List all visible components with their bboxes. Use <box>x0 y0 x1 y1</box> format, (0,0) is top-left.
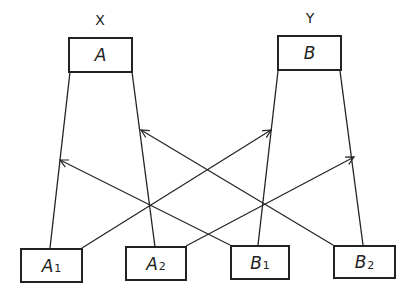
box-A1-label: A <box>42 256 54 276</box>
box-B1-subscript: 1 <box>263 259 270 272</box>
box-B: B <box>277 35 342 71</box>
box-B2-subscript: 2 <box>367 259 374 272</box>
box-A2: A2 <box>125 246 187 281</box>
box-A: A <box>68 37 133 73</box>
arrow-A2-to-Y <box>186 157 354 246</box>
box-A2-subscript: 2 <box>159 260 166 273</box>
box-B2: B2 <box>333 245 396 279</box>
box-A2-label: A <box>146 254 158 274</box>
line-B-to-B1 <box>258 71 278 245</box>
box-B1-label: B <box>250 253 262 273</box>
box-A-label: A <box>95 45 107 65</box>
diagram-canvas: X Y A B A1 A2 B1 B2 <box>0 0 415 293</box>
box-A1: A1 <box>20 248 83 283</box>
group-label-y: Y <box>306 10 315 26</box>
box-B2-label: B <box>355 252 367 272</box>
arrow-B2-to-X <box>141 130 333 245</box>
box-B-label: B <box>304 43 316 63</box>
box-A1-subscript: 1 <box>54 262 61 275</box>
group-label-x: X <box>95 12 105 28</box>
arrow-A1-to-Y <box>82 130 271 248</box>
line-A-to-A2 <box>132 72 155 247</box>
box-B1: B1 <box>230 245 290 280</box>
